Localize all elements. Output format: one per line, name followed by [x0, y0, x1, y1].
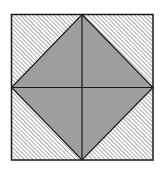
square-diamond-diagram [0, 0, 163, 171]
